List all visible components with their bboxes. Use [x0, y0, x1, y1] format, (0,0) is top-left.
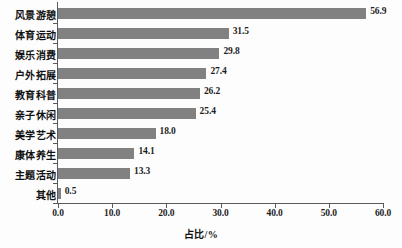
bar[interactable]: [58, 68, 206, 79]
y-axis-tick: [53, 83, 57, 84]
bar[interactable]: [58, 128, 156, 139]
category-label: 其他: [36, 187, 56, 202]
category-label: 亲子休闲: [15, 107, 56, 122]
bar[interactable]: [58, 188, 61, 199]
bar-value-label: 56.9: [370, 6, 386, 16]
category-label: 康体养生: [15, 147, 56, 162]
bar-row[interactable]: 0.5: [58, 188, 402, 199]
bar-row[interactable]: 29.8: [58, 48, 402, 59]
bar[interactable]: [58, 28, 229, 39]
bar-value-label: 25.4: [200, 106, 216, 116]
bar[interactable]: [58, 48, 219, 59]
bar-row[interactable]: 31.5: [58, 28, 402, 39]
bar[interactable]: [58, 168, 130, 179]
bar-value-label: 14.1: [138, 146, 154, 156]
bar[interactable]: [58, 148, 134, 159]
y-axis-tick: [53, 43, 57, 44]
category-label: 户外拓展: [15, 67, 56, 82]
category-label: 教育科普: [15, 87, 56, 102]
category-label: 主题活动: [15, 167, 56, 182]
bar-row[interactable]: 14.1: [58, 148, 402, 159]
y-axis-tick: [53, 103, 57, 104]
y-axis-tick: [53, 123, 57, 124]
y-axis-tick: [53, 143, 57, 144]
bar-row[interactable]: 26.2: [58, 88, 402, 99]
bar-row[interactable]: 56.9: [58, 8, 402, 19]
x-axis-tick-label: 50.0: [321, 208, 337, 218]
y-axis-tick: [53, 183, 57, 184]
bar-value-label: 0.5: [65, 186, 77, 196]
y-axis-tick: [53, 203, 57, 204]
bar[interactable]: [58, 8, 366, 19]
category-label: 风景游憩: [15, 7, 56, 22]
bar-value-label: 13.3: [134, 166, 150, 176]
bar-row[interactable]: 27.4: [58, 68, 402, 79]
y-axis-tick: [53, 23, 57, 24]
bar[interactable]: [58, 88, 200, 99]
bar-row[interactable]: 18.0: [58, 128, 402, 139]
bar-row[interactable]: 13.3: [58, 168, 402, 179]
bar-value-label: 18.0: [160, 126, 176, 136]
x-axis-tick-label: 0.0: [52, 208, 64, 218]
category-label: 娱乐消费: [15, 47, 56, 62]
x-axis-tick-label: 40.0: [267, 208, 283, 218]
y-axis-tick: [53, 163, 57, 164]
x-axis-tick-label: 60.0: [375, 208, 391, 218]
x-axis-tick-label: 30.0: [212, 208, 228, 218]
bar-value-label: 31.5: [233, 26, 249, 36]
bar-value-label: 29.8: [223, 46, 239, 56]
y-axis-tick: [53, 63, 57, 64]
bar-value-label: 27.4: [210, 66, 226, 76]
bar-chart: 0.010.020.030.040.050.060.0 风景游憩体育运动娱乐消费…: [0, 0, 402, 248]
x-axis-tick-label: 10.0: [104, 208, 120, 218]
category-label: 美学艺术: [15, 127, 56, 142]
bar[interactable]: [58, 108, 196, 119]
category-label: 体育运动: [15, 27, 56, 42]
x-axis-title: 占比/%: [0, 226, 402, 241]
x-axis-tick-label: 20.0: [158, 208, 174, 218]
bar-row[interactable]: 25.4: [58, 108, 402, 119]
bar-value-label: 26.2: [204, 86, 220, 96]
